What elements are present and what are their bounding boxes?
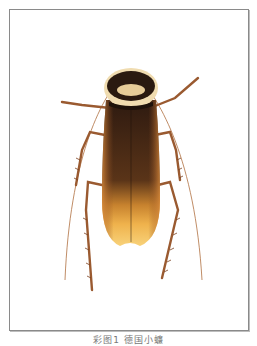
figure-caption: 彩图1 德国小蠊 [0,333,257,346]
figure-frame [9,9,249,331]
cockroach-photo [10,10,248,330]
